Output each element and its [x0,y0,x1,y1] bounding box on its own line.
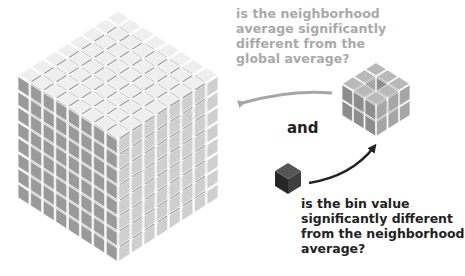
neighborhood-cube-icon [342,63,410,136]
arrow-to-global-icon [242,92,332,103]
arrow-to-neighborhood-icon [309,147,374,183]
connector-and: and [287,121,319,136]
question-global-average: is the neighborhood average significantl… [236,6,386,66]
bin-cube-icon [275,163,301,194]
question-bin-value: is the bin value significantly different… [301,196,465,256]
global-grid-cube-icon [18,11,218,261]
